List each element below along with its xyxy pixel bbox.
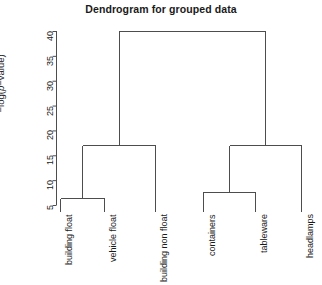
leaf-label: headlamps <box>305 214 315 258</box>
dendrogram-plot: Dendrogram for grouped data −log(p−value… <box>0 0 322 285</box>
leaf-label: containers <box>207 214 217 256</box>
y-axis <box>53 31 57 206</box>
leaf-label: building float <box>64 214 74 265</box>
leaf-label: tableware <box>259 214 269 253</box>
leaf-label: vehicle float <box>108 214 118 262</box>
dendrogram-tree <box>61 32 302 212</box>
leaf-label: building non float <box>159 214 169 282</box>
